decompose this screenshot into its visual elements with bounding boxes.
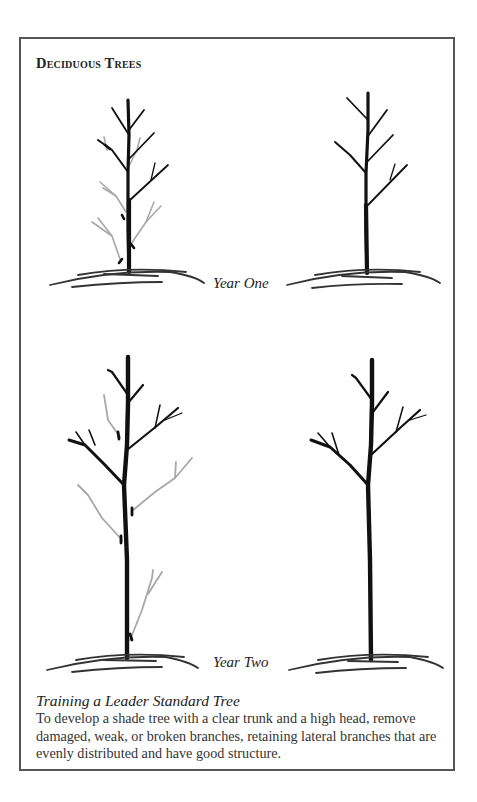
year-two-label: Year Two (213, 654, 268, 671)
tree-illustrations (0, 0, 477, 802)
caption-body: To develop a shade tree with a clear tru… (36, 710, 446, 763)
ground-lines (289, 655, 443, 673)
tree-year-one-before (50, 100, 204, 287)
tree-year-one-after (287, 93, 440, 288)
year-one-label: Year One (213, 275, 269, 292)
retained-branches (311, 360, 426, 660)
figure-caption: Training a Leader Standard Tree To devel… (36, 692, 446, 763)
ground-lines (47, 655, 198, 672)
caption-title: Training a Leader Standard Tree (36, 692, 446, 710)
tree-year-two-before (47, 357, 198, 672)
retained-branches (69, 357, 182, 658)
retained-branches (335, 93, 407, 273)
ground-lines (287, 270, 440, 288)
tree-year-two-after (289, 360, 443, 673)
ground-lines (50, 270, 204, 287)
removed-branches (78, 395, 192, 640)
